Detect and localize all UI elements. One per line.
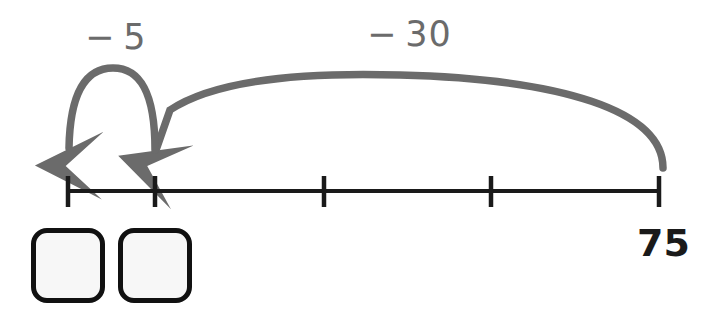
answer-box-1[interactable] [31,228,105,303]
number-line-endpoint-label-75: 75 [637,224,690,262]
jump-arc-minus-5 [69,68,155,150]
number-line-worksheet: − 5 − 30 75 [0,0,720,311]
jump-arc-minus-30 [156,74,663,168]
answer-box-2[interactable] [118,228,192,303]
jump-label-minus-30: − 30 [367,17,452,52]
jump-label-minus-5: − 5 [85,20,147,55]
